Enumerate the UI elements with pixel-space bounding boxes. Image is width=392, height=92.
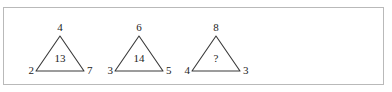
triangle-3-bottom-right-value: 3 xyxy=(243,65,257,76)
triangle-3-outline xyxy=(176,0,272,92)
triangle-2-bottom-left-value: 3 xyxy=(99,65,113,76)
triangle-3-apex-value: 8 xyxy=(207,22,225,33)
triangle-3-bottom-left-value: 4 xyxy=(176,65,190,76)
triangle-1-apex-value: 4 xyxy=(51,22,69,33)
triangle-3: 8 4 3 ? xyxy=(176,0,272,92)
triangle-puzzle-figure: 4 2 7 13 6 3 5 14 8 4 3 ? xyxy=(0,0,392,92)
triangle-3-unknown-value: ? xyxy=(204,53,228,64)
triangle-1-bottom-left-value: 2 xyxy=(20,65,34,76)
triangle-1-center-value: 13 xyxy=(48,53,72,64)
triangle-2-center-value: 14 xyxy=(127,53,151,64)
triangle-2-apex-value: 6 xyxy=(130,22,148,33)
